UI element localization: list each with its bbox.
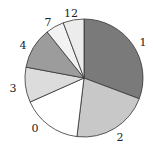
slice-label-0: 0 bbox=[32, 122, 39, 135]
pie-chart: 12034712 bbox=[0, 0, 153, 145]
slice-label-3: 3 bbox=[10, 82, 17, 95]
slice-label-4: 4 bbox=[20, 39, 27, 52]
slice-label-1: 1 bbox=[140, 36, 147, 49]
slice-label-7: 7 bbox=[45, 16, 52, 29]
pie-slices bbox=[25, 19, 143, 137]
slice-label-12: 12 bbox=[64, 7, 78, 20]
slice-label-2: 2 bbox=[117, 131, 124, 144]
